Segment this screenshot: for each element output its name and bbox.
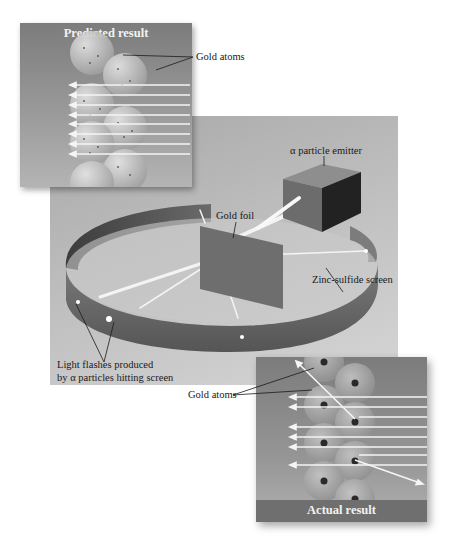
actual-leader-lines xyxy=(0,0,451,548)
actual-gold-atoms-label: Gold atoms xyxy=(188,389,237,401)
